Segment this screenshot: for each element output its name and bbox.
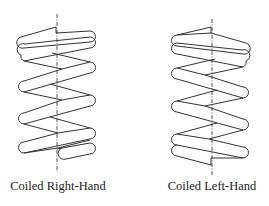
left-back-strand-1b: [177, 59, 215, 68]
right-coil-2: [17, 37, 95, 61]
springs-drawing: [0, 0, 269, 206]
left-back-strand-3b: [177, 123, 217, 134]
right-end-coil: [58, 143, 95, 159]
left-coil-5: [172, 134, 249, 158]
right-back-strand-2b: [50, 84, 90, 95]
right-back-strand-1b: [52, 53, 90, 62]
left-back-strand-2b: [177, 90, 217, 101]
left-coil-3: [172, 68, 249, 98]
right-back-strand-3b: [50, 117, 90, 128]
left-coil-1: [172, 27, 251, 54]
left-back-strand-2: [177, 98, 243, 106]
left-hand-spring: [172, 19, 251, 176]
right-hand-label: Coiled Right-Hand: [10, 179, 105, 194]
left-hand-label: Coiled Left-Hand: [168, 179, 257, 194]
right-hand-spring: [17, 14, 96, 172]
spring-handedness-diagram: Coiled Right-Hand Coiled Left-Hand: [0, 0, 269, 206]
left-back-strand-1: [177, 67, 243, 75]
